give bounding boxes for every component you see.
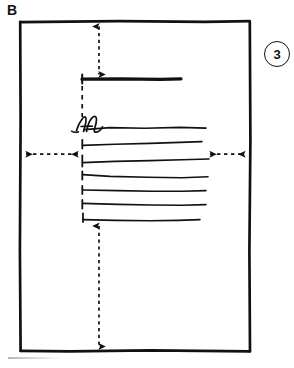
trace-line-group xyxy=(82,127,209,222)
table-row xyxy=(82,156,209,167)
table-row xyxy=(82,186,206,194)
figure-drawing-canvas xyxy=(0,0,294,368)
table-row xyxy=(83,214,200,223)
thick-header-line xyxy=(82,75,181,84)
table-row xyxy=(82,200,206,209)
table-row xyxy=(82,172,208,180)
outer-rectangle-frame xyxy=(20,21,251,351)
table-row xyxy=(84,127,206,129)
table-row xyxy=(82,140,202,149)
figure-panel-b: B 3 xyxy=(0,0,294,368)
